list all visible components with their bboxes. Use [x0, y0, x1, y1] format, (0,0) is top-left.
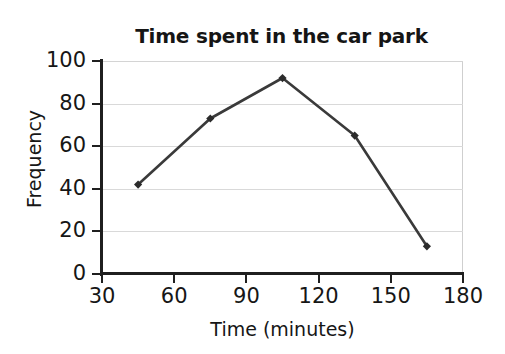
- x-axis-tick: [462, 274, 464, 283]
- y-axis-tick-label: 80: [26, 93, 86, 114]
- x-axis-title: Time (minutes): [102, 318, 463, 340]
- x-axis-tick-label: 120: [289, 286, 349, 307]
- gridline-y: [102, 104, 463, 105]
- gridline-y: [102, 61, 463, 62]
- y-axis-line: [100, 59, 103, 276]
- plot-area: [102, 61, 463, 274]
- chart-title: Time spent in the car park: [0, 24, 505, 48]
- x-axis-tick: [390, 274, 392, 283]
- y-axis-tick-label: 20: [26, 220, 86, 241]
- x-axis-tick: [318, 274, 320, 283]
- plot-right-border: [462, 61, 463, 274]
- gridline-y: [102, 146, 463, 147]
- chart-page: Time spent in the car park Frequency Tim…: [0, 0, 505, 354]
- y-axis-tick: [92, 188, 101, 190]
- x-axis-tick: [245, 274, 247, 283]
- y-axis-tick: [92, 230, 101, 232]
- x-axis-tick-label: 30: [72, 286, 132, 307]
- x-axis-tick-label: 60: [144, 286, 204, 307]
- y-axis-tick-label: 0: [26, 263, 86, 284]
- x-axis-tick: [173, 274, 175, 283]
- y-axis-tick-label: 100: [26, 50, 86, 71]
- y-axis-tick: [92, 103, 101, 105]
- gridline-y: [102, 189, 463, 190]
- x-axis-tick: [101, 274, 103, 283]
- y-axis-tick: [92, 145, 101, 147]
- x-axis-tick-label: 150: [361, 286, 421, 307]
- x-axis-tick-label: 90: [216, 286, 276, 307]
- x-axis-line: [100, 272, 464, 275]
- y-axis-tick: [92, 60, 101, 62]
- y-axis-tick-label: 60: [26, 135, 86, 156]
- x-axis-tick-label: 180: [433, 286, 493, 307]
- y-axis-tick: [92, 273, 101, 275]
- y-axis-tick-label: 40: [26, 178, 86, 199]
- gridline-y: [102, 231, 463, 232]
